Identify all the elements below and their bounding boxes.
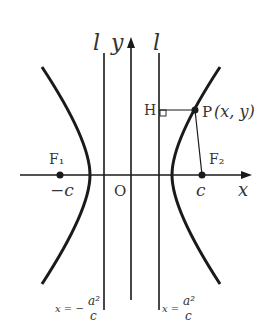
focus-F1-coord: −c bbox=[50, 180, 74, 200]
svg-text:c: c bbox=[185, 309, 192, 323]
point-H-label: H bbox=[144, 102, 156, 118]
right-angle-mark bbox=[160, 110, 166, 116]
right-directrix-equation: x = a² c bbox=[162, 294, 195, 323]
point-P-label: P bbox=[202, 103, 212, 121]
x-axis-arrow-icon bbox=[241, 171, 252, 179]
focus-F2-coord: c bbox=[196, 180, 206, 200]
point-P bbox=[192, 107, 199, 114]
svg-text:x =: x = bbox=[162, 303, 179, 314]
left-directrix-equation: x = − a² c bbox=[55, 294, 100, 323]
point-P-coords: (x, y) bbox=[214, 102, 255, 121]
svg-text:c: c bbox=[90, 309, 97, 323]
segment-PF2 bbox=[195, 110, 202, 175]
diagram-canvas: l y l H P (x, y) F₁ F₂ −c O c x x = − a²… bbox=[0, 0, 280, 336]
right-directrix-label: l bbox=[153, 30, 160, 55]
hyperbola-diagram: l y l H P (x, y) F₁ F₂ −c O c x x = − a²… bbox=[0, 0, 280, 336]
focus-F2 bbox=[199, 172, 206, 179]
x-axis-label: x bbox=[238, 179, 248, 200]
focus-F1 bbox=[57, 172, 64, 179]
origin-label: O bbox=[114, 182, 126, 200]
y-axis-label: y bbox=[110, 30, 124, 55]
focus-F1-label: F₁ bbox=[49, 151, 64, 167]
svg-text:a²: a² bbox=[183, 294, 195, 308]
svg-text:a²: a² bbox=[88, 294, 100, 308]
svg-text:x = −: x = − bbox=[55, 303, 84, 314]
left-directrix-label: l bbox=[93, 30, 100, 55]
y-axis-arrow-icon bbox=[127, 37, 135, 48]
focus-F2-label: F₂ bbox=[209, 151, 224, 167]
